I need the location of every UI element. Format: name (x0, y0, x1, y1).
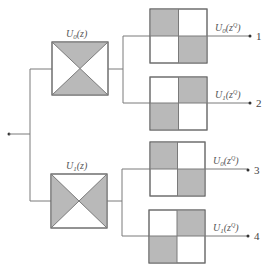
output-number-1: 1 (256, 30, 262, 42)
output-node-3 (247, 169, 250, 172)
u1-label: U1(z) (66, 160, 88, 173)
box4-label: U1(zQ) (213, 222, 239, 235)
output-number-3: 3 (254, 164, 260, 176)
u1-filter-block (51, 174, 107, 228)
box1-label: U0(zQ) (215, 22, 241, 35)
output-number-2: 2 (256, 97, 262, 109)
u0-filter-block (52, 42, 108, 95)
filter-bank-diagram: U0(z) U1(z) U0(zQ) 1 U1(zQ) 2 (0, 0, 267, 271)
box3-label: U0(zQ) (213, 155, 239, 168)
output-node-2 (249, 102, 252, 105)
box2-label: U1(zQ) (215, 89, 241, 102)
output-node-4 (247, 235, 250, 238)
output-node-1 (249, 35, 252, 38)
output-number-4: 4 (254, 230, 260, 242)
u0-label: U0(z) (66, 28, 88, 41)
